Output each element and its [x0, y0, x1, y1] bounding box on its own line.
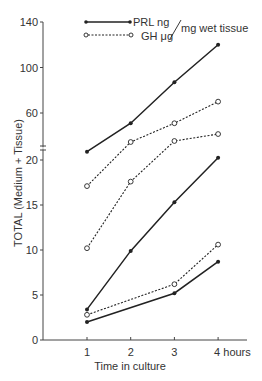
y-tick-label: 100: [20, 62, 38, 74]
prl-data-point-icon: [129, 121, 133, 125]
prl-data-point-icon: [85, 150, 89, 154]
prl-data-point-icon: [216, 156, 220, 160]
legend-prl-marker-icon: [84, 20, 88, 24]
y-tick-label: 5: [32, 289, 38, 301]
gh-data-point-icon: [128, 140, 133, 145]
prl-data-point-icon: [216, 260, 220, 264]
x-tick-label: 4 hours: [214, 346, 251, 358]
legend-gh-marker-icon: [84, 33, 88, 37]
prl-data-point-icon: [85, 320, 89, 324]
y-axis-title: TOTAL (Medium + Tissue): [12, 119, 24, 247]
gh-data-point-icon: [85, 246, 90, 251]
gh-data-point-icon: [216, 99, 221, 104]
gh-series-line: [87, 134, 218, 248]
gh-data-point-icon: [85, 312, 90, 317]
legend-prl-label: PRL ng: [133, 16, 169, 28]
y-tick-label: 10: [26, 244, 38, 256]
prl-data-point-icon: [172, 80, 176, 84]
x-tick-label: 3: [171, 346, 177, 358]
gh-series-line: [87, 102, 218, 186]
prl-series-line: [87, 45, 218, 152]
legend-gh-marker-icon: [129, 33, 133, 37]
prl-data-point-icon: [216, 43, 220, 47]
prl-data-point-icon: [129, 249, 133, 253]
y-tick-label: 15: [26, 199, 38, 211]
y-tick-label: 20: [26, 154, 38, 166]
gh-data-point-icon: [216, 242, 221, 247]
gh-data-point-icon: [172, 282, 177, 287]
gh-data-point-icon: [216, 132, 221, 137]
y-tick-label: 140: [20, 16, 38, 28]
prl-data-point-icon: [85, 307, 89, 311]
line-chart: 05101520601001401234 hours PRL ng GH μg …: [0, 0, 262, 381]
prl-data-point-icon: [172, 200, 176, 204]
gh-data-point-icon: [128, 179, 133, 184]
legend-unit-label: mg wet tissue: [181, 22, 248, 34]
y-tick-label: 0: [32, 334, 38, 346]
x-tick-label: 1: [84, 346, 90, 358]
legend: PRL ng GH μg mg wet tissue: [84, 16, 248, 42]
gh-series-line: [87, 245, 218, 315]
x-axis-title: Time in culture: [94, 360, 166, 372]
y-tick-label: 60: [26, 107, 38, 119]
legend-gh-label: GH μg: [141, 30, 173, 42]
prl-series-line: [87, 158, 218, 310]
gh-data-point-icon: [85, 184, 90, 189]
series-layer: [85, 43, 221, 324]
gh-data-point-icon: [172, 121, 177, 126]
axis-break-gap: [42, 147, 43, 149]
prl-data-point-icon: [172, 291, 176, 295]
legend-prl-marker-icon: [128, 20, 132, 24]
gh-data-point-icon: [172, 139, 177, 144]
x-tick-label: 2: [128, 346, 134, 358]
